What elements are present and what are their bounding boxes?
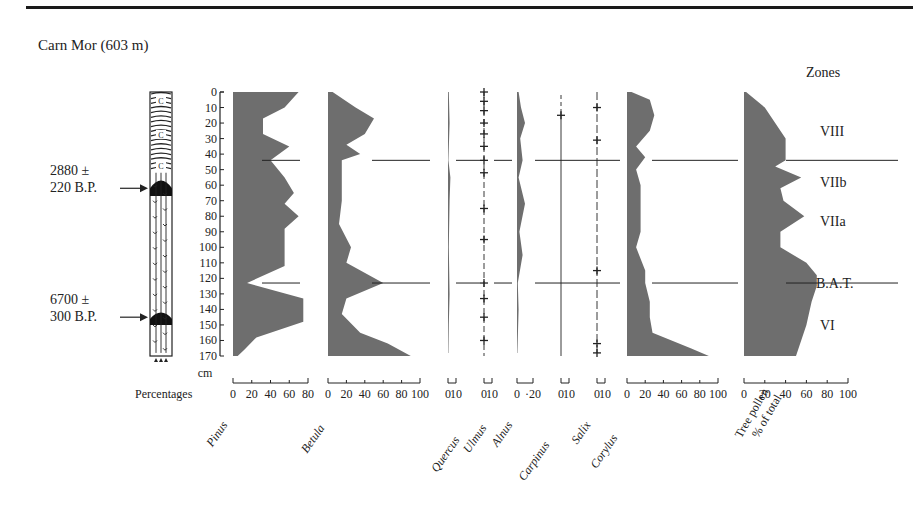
scale-tick-label: 20	[340, 387, 352, 401]
scale-tick-label: 0	[624, 387, 630, 401]
depth-tick-label: 110	[199, 256, 217, 270]
taxon-label-salix: Salix	[568, 418, 594, 446]
series-alnus	[517, 92, 533, 383]
scale-tick-label: 100	[839, 387, 857, 401]
series-salix	[593, 92, 605, 383]
series-carpinus	[557, 92, 569, 383]
taxon-label-ulmus: Ulmus	[460, 421, 490, 455]
scale-tick-label: 40	[265, 387, 277, 401]
taxon-label-pinus: Pinus	[203, 418, 231, 450]
date-label: 220 B.P.	[50, 180, 97, 195]
depth-tick-label: 80	[205, 209, 217, 223]
series-pinus	[233, 92, 308, 383]
charcoal-marker: C	[158, 97, 163, 106]
pollen-curve	[627, 92, 709, 356]
scale-tick-label: ·20	[525, 387, 541, 401]
pollen-curve	[517, 92, 525, 353]
arrow-up-icon	[159, 358, 163, 362]
depth-tick-label: 50	[205, 163, 217, 177]
scale-tick-label: 10	[486, 387, 498, 401]
lithology-column: CCC	[150, 92, 172, 362]
scale-tick-label: 20	[639, 387, 651, 401]
scale-tick-label: 60	[676, 387, 688, 401]
depth-tick-label: 140	[199, 302, 217, 316]
zone-label: VIIb	[820, 175, 846, 190]
date-label: 2880 ±	[50, 163, 90, 178]
taxon-label-betula: Betula	[298, 422, 327, 456]
depth-tick-label: 90	[205, 225, 217, 239]
scale-tick-label: 60	[377, 387, 389, 401]
depth-tick-label: 130	[199, 287, 217, 301]
zones-header: Zones	[806, 65, 840, 80]
scale-tick-label: 60	[283, 387, 295, 401]
zone-label: VIII	[820, 124, 844, 139]
series-ulmus	[480, 88, 492, 383]
pollen-curve	[448, 92, 450, 353]
scale-tick-label: 0	[230, 387, 236, 401]
depth-tick-label: 30	[205, 132, 217, 146]
arrow-up-icon	[164, 358, 168, 362]
series-betula	[328, 92, 420, 383]
depth-tick-label: 10	[205, 101, 217, 115]
scale-tick-label: 100	[411, 387, 429, 401]
scale-tick-label: 80	[396, 387, 408, 401]
depth-tick-label: 60	[205, 178, 217, 192]
taxon-label-alnus: Alnus	[488, 418, 516, 450]
depth-tick-label: 70	[205, 194, 217, 208]
depth-tick-label: 0	[211, 85, 217, 99]
scale-tick-label: 10	[450, 387, 462, 401]
series-quercus	[448, 92, 456, 383]
pollen-curve	[744, 92, 817, 356]
depth-tick-label: 160	[199, 333, 217, 347]
taxon-label-corylus: Corylus	[587, 431, 620, 470]
zone-label: B.A.T.	[816, 276, 853, 291]
taxon-label-carpinus: Carpinus	[515, 438, 552, 483]
arrow-right-icon	[140, 184, 148, 192]
depth-tick-label: 170	[199, 349, 217, 363]
scale-tick-label: 20	[246, 387, 258, 401]
percentages-label: Percentages	[135, 387, 193, 401]
scale-tick-label: 40	[359, 387, 371, 401]
depth-tick-label: 20	[205, 116, 217, 130]
scale-tick-label: 0	[514, 387, 520, 401]
scale-tick-label: 80	[694, 387, 706, 401]
scale-tick-label: 10	[599, 387, 611, 401]
scale-tick-label: 0	[741, 387, 747, 401]
depth-tick-label: 100	[199, 240, 217, 254]
scale-tick-label: 40	[657, 387, 669, 401]
scale-tick-label: 10	[563, 387, 575, 401]
depth-tick-label: 120	[199, 271, 217, 285]
date-label: 300 B.P.	[50, 309, 97, 324]
series-corylus	[627, 92, 718, 383]
depth-tick-label: 150	[199, 318, 217, 332]
scale-tick-label: 80	[302, 387, 314, 401]
date-label: 6700 ±	[50, 292, 90, 307]
pollen-diagram: 0102030405060708090100110120130140150160…	[0, 0, 913, 520]
scale-tick-label: 100	[709, 387, 727, 401]
depth-unit-label: cm	[198, 366, 213, 380]
depth-tick-label: 40	[205, 147, 217, 161]
taxon-label-quercus: Quercus	[428, 433, 463, 474]
arrow-up-icon	[154, 358, 158, 362]
pollen-curve	[328, 92, 411, 356]
charcoal-marker: C	[158, 131, 163, 140]
arrow-right-icon	[140, 313, 148, 321]
charcoal-marker: C	[158, 162, 163, 171]
scale-tick-label: 80	[821, 387, 833, 401]
scale-tick-label: 60	[800, 387, 812, 401]
pollen-curve	[233, 92, 303, 356]
scale-tick-label: 0	[325, 387, 331, 401]
zone-label: VI	[820, 318, 835, 333]
zone-label: VIIa	[820, 214, 846, 229]
